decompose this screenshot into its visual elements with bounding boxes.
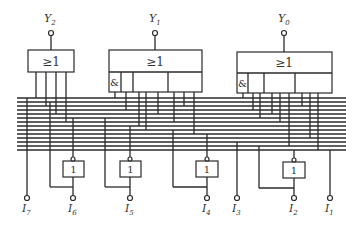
output-label-y0: Y0 bbox=[278, 12, 290, 27]
svg-text:I3: I3 bbox=[231, 202, 241, 217]
svg-text:I7: I7 bbox=[21, 202, 31, 217]
input-i4: I4 1 bbox=[173, 130, 218, 217]
or-gate-y0: Y0 ≥1 & bbox=[237, 12, 332, 150]
svg-text:1: 1 bbox=[70, 164, 76, 175]
svg-text:≥1: ≥1 bbox=[275, 56, 293, 70]
input-i3: I3 bbox=[231, 142, 241, 217]
output-pin-y0 bbox=[282, 31, 287, 36]
svg-text:1: 1 bbox=[291, 165, 297, 176]
output-label-y1: Y1 bbox=[149, 12, 161, 27]
svg-text:I4: I4 bbox=[201, 202, 211, 217]
svg-text:I6: I6 bbox=[67, 202, 77, 217]
and-symbol: & bbox=[110, 77, 119, 88]
svg-text:&: & bbox=[238, 78, 247, 89]
svg-text:1: 1 bbox=[127, 164, 133, 175]
output-pin-y1 bbox=[153, 31, 158, 36]
output-pin-y2 bbox=[49, 31, 54, 36]
or-gate-y1: Y1 ≥1 & bbox=[109, 12, 202, 134]
svg-text:I5: I5 bbox=[124, 202, 134, 217]
input-i5: I5 1 bbox=[105, 118, 141, 217]
svg-text:I2: I2 bbox=[288, 202, 298, 217]
output-label-y2: Y2 bbox=[44, 12, 56, 27]
input-i1: I1 bbox=[324, 150, 334, 217]
input-i6: I6 1 bbox=[50, 102, 84, 217]
svg-text:≥1: ≥1 bbox=[146, 55, 164, 69]
input-i2: I2 1 bbox=[259, 146, 305, 217]
svg-text:I1: I1 bbox=[324, 202, 334, 217]
input-i7: I7 bbox=[21, 98, 31, 217]
priority-encoder-diagram: Y2 ≥1 Y1 ≥1 & Y0 ≥1 bbox=[0, 0, 356, 228]
svg-text:1: 1 bbox=[204, 164, 210, 175]
or-symbol: ≥1 bbox=[42, 55, 60, 69]
